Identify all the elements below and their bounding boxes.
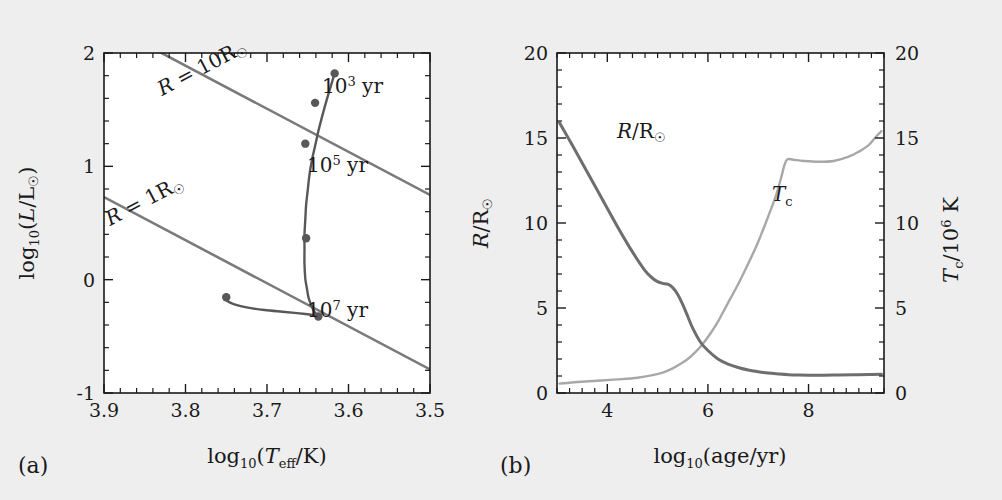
yticklabel-a-3: 2 (83, 42, 95, 64)
yticklabel-right-b-0: 0 (895, 382, 907, 404)
xticklabel-a-4: 3.5 (415, 399, 445, 421)
xticklabel-b-0: 4 (601, 399, 613, 421)
yticklabel-b-3: 15 (524, 127, 548, 149)
yticklabel-a-0: -1 (76, 382, 95, 404)
panel-a-tag: (a) (18, 453, 48, 478)
figure-container: 3.93.83.73.63.5-1012 log10(Teff/K) log10… (0, 0, 1002, 500)
panel-a-yaxis-label: log10(L/L☉) (15, 167, 42, 280)
yticklabel-b-1: 5 (536, 297, 548, 319)
panel-b-tag: (b) (500, 453, 531, 478)
track-marker-1 (311, 99, 319, 107)
track-marker-3 (302, 234, 310, 242)
panel-b-plot-area (557, 53, 884, 393)
yticklabel-right-b-2: 10 (895, 212, 919, 234)
panel-b-yaxis-label-left: R/R☉ (469, 198, 495, 250)
xticklabel-a-2: 3.7 (252, 399, 282, 421)
yticklabel-right-b-3: 15 (895, 127, 919, 149)
figure-svg: 3.93.83.73.63.5-1012 log10(Teff/K) log10… (0, 0, 1002, 500)
panel-a: 3.93.83.73.63.5-1012 log10(Teff/K) log10… (15, 23, 445, 478)
xticklabel-b-1: 6 (702, 399, 714, 421)
xticklabel-b-2: 8 (802, 399, 814, 421)
panel-b-yaxis-label-right: Tc/106 K (939, 197, 966, 283)
yticklabel-b-4: 20 (524, 42, 548, 64)
panel-a-xaxis-label: log10(Teff/K) (207, 444, 326, 471)
yticklabel-right-b-1: 5 (895, 297, 907, 319)
xticklabel-a-1: 3.8 (170, 399, 200, 421)
yticklabel-a-1: 0 (83, 269, 95, 291)
yticklabel-right-b-4: 20 (895, 42, 919, 64)
yticklabel-a-2: 1 (83, 155, 95, 177)
track-marker-5 (222, 293, 230, 301)
track-marker-2 (301, 139, 309, 147)
xticklabel-a-3: 3.6 (333, 399, 363, 421)
panel-b-xaxis-label: log10(age/yr) (653, 444, 786, 471)
panel-b: 4680510152005101520 log10(age/yr) R/R☉ T… (469, 42, 966, 478)
yticklabel-b-0: 0 (536, 382, 548, 404)
yticklabel-b-2: 10 (524, 212, 548, 234)
